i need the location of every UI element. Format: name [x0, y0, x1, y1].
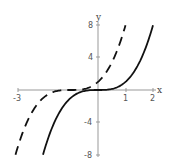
x-axis-label: x — [157, 85, 162, 95]
y-tick-label-neg4: -4 — [84, 118, 92, 127]
y-tick-label-4: 4 — [88, 53, 93, 62]
y-tick-label-neg8: -8 — [84, 151, 92, 160]
cubic-graph: -3 1 2 8 4 -4 -8 x y — [0, 0, 173, 167]
y-tick-label-8: 8 — [88, 21, 93, 30]
x-tick-label-2: 2 — [150, 94, 155, 103]
y-axis-label: y — [95, 12, 102, 22]
x-tick-label-neg3: -3 — [13, 94, 21, 103]
x-tick-label-1: 1 — [123, 94, 128, 103]
